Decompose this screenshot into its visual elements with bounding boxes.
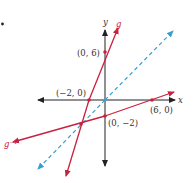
point-neg2-0 xyxy=(87,98,91,102)
g-line xyxy=(89,28,118,100)
identity-line xyxy=(105,31,173,100)
point-0-6 xyxy=(103,50,107,54)
y-axis-label: y xyxy=(102,17,108,27)
g-label: g xyxy=(116,19,122,29)
label-neg2-0: (−2, 0) xyxy=(56,88,86,98)
intersection-point xyxy=(79,122,83,126)
bullet-dot xyxy=(1,23,4,26)
g-inverse-label: g⁻¹ xyxy=(4,139,17,149)
label-6-0: (6, 0) xyxy=(150,105,173,115)
x-axis-label: x xyxy=(178,95,183,105)
graph-svg: y x g g⁻¹ (0, 6) (−2, 0) (6, 0) (0, −2) xyxy=(0,0,196,183)
origin-point xyxy=(104,99,107,102)
label-0-6: (0, 6) xyxy=(77,48,100,58)
inverse-function-graph: y x g g⁻¹ (0, 6) (−2, 0) (6, 0) (0, −2) xyxy=(0,0,196,183)
point-0-neg2 xyxy=(103,114,107,118)
label-0-neg2: (0, −2) xyxy=(108,118,138,128)
point-6-0 xyxy=(150,98,154,102)
